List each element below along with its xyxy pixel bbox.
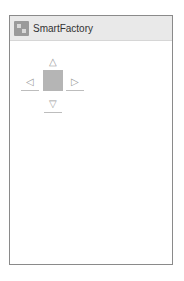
action-bar: SmartFactory <box>10 16 172 41</box>
left-button[interactable]: ◁ <box>21 72 39 91</box>
arrow-left-icon: ◁ <box>26 76 34 87</box>
right-button[interactable]: ▷ <box>66 72 84 91</box>
arrow-up-icon: △ <box>49 56 57 67</box>
system-nav-bar <box>0 267 184 281</box>
app-title: SmartFactory <box>33 23 93 34</box>
arrow-right-icon: ▷ <box>71 76 79 87</box>
up-button[interactable]: △ <box>44 52 62 70</box>
arrow-down-icon: ▽ <box>49 98 57 109</box>
app-window: SmartFactory △ ◁ ▷ ▽ <box>9 15 173 265</box>
down-button[interactable]: ▽ <box>44 94 62 113</box>
center-button[interactable] <box>43 70 63 91</box>
app-logo-icon <box>14 21 29 36</box>
